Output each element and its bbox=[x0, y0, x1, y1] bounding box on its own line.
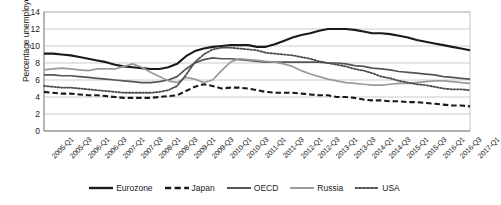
y-tick-label: 2 bbox=[18, 110, 40, 119]
legend-swatch-oecd-icon bbox=[227, 183, 251, 193]
legend-swatch-russia-icon bbox=[290, 183, 314, 193]
chart-legend: EurozoneJapanOECDRussiaUSA bbox=[0, 183, 489, 193]
legend-item-russia[interactable]: Russia bbox=[290, 183, 343, 193]
y-tick-label: 4 bbox=[18, 93, 40, 102]
legend-item-oecd[interactable]: OECD bbox=[227, 183, 279, 193]
legend-item-japan[interactable]: Japan bbox=[165, 183, 215, 193]
y-tick-label: 14 bbox=[18, 8, 40, 17]
y-tick-label: 12 bbox=[18, 25, 40, 34]
legend-label: Russia bbox=[317, 183, 343, 193]
series-line-usa bbox=[44, 48, 470, 93]
legend-label: OECD bbox=[254, 183, 279, 193]
legend-label: Japan bbox=[192, 183, 215, 193]
legend-item-usa[interactable]: USA bbox=[355, 183, 399, 193]
y-tick-label: 6 bbox=[18, 76, 40, 85]
legend-swatch-eurozone-icon bbox=[89, 183, 113, 193]
y-tick-label: 10 bbox=[18, 42, 40, 51]
y-tick-label: 8 bbox=[18, 59, 40, 68]
legend-swatch-usa-icon bbox=[355, 183, 379, 193]
legend-swatch-japan-icon bbox=[165, 183, 189, 193]
legend-item-eurozone[interactable]: Eurozone bbox=[89, 183, 152, 193]
legend-label: Eurozone bbox=[116, 183, 152, 193]
series-line-japan bbox=[44, 84, 470, 106]
y-tick-label: 0 bbox=[18, 127, 40, 136]
series-lines bbox=[44, 29, 470, 106]
legend-label: USA bbox=[382, 183, 399, 193]
